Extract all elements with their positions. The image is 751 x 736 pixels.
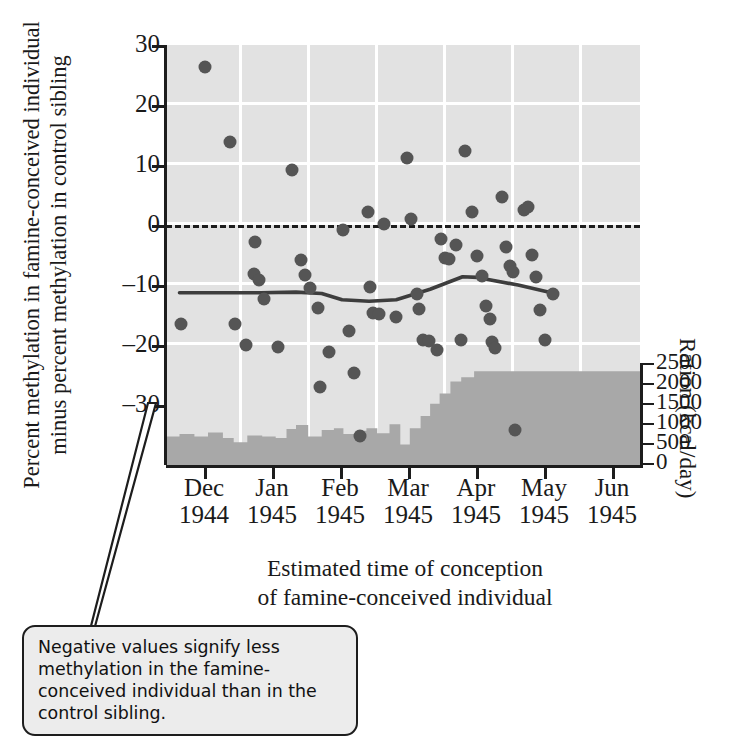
scatter-point [174, 317, 187, 330]
scatter-point [257, 293, 270, 306]
scatter-point [199, 60, 212, 73]
x-axis-title: Estimated time of conception of famine-c… [165, 554, 645, 611]
scatter-point [253, 273, 266, 286]
y-axis-right-title: Ration (kcal/day) [670, 338, 700, 538]
scatter-point [337, 223, 350, 236]
scatter-point [303, 281, 316, 294]
plot-area [166, 45, 640, 465]
scatter-point [322, 345, 335, 358]
trend-line [166, 45, 640, 465]
y-tick-label: 0 [10, 210, 160, 238]
scatter-point [483, 313, 496, 326]
y-tick-label: 10 [10, 150, 160, 178]
y-tick-label: 30 [10, 30, 160, 58]
callout-text: Negative values signify less methylation… [38, 637, 317, 723]
scatter-point [285, 163, 298, 176]
scatter-point [410, 288, 423, 301]
y-tick-label: 20 [10, 90, 160, 118]
scatter-point [525, 249, 538, 262]
scatter-point [443, 253, 456, 266]
scatter-point [509, 424, 522, 437]
ration-tick [643, 383, 654, 385]
ration-tick [643, 423, 654, 425]
scatter-point [314, 381, 327, 394]
x-tick-label: Jun1945 [557, 474, 667, 528]
y-tick-label: –20 [10, 330, 160, 358]
scatter-point [239, 339, 252, 352]
scatter-point [295, 253, 308, 266]
scatter-point [529, 271, 542, 284]
scatter-point [434, 232, 447, 245]
callout-pointer [60, 398, 200, 633]
ration-tick [643, 443, 654, 445]
scatter-point [459, 145, 472, 158]
scatter-point [466, 206, 479, 219]
scatter-point [298, 269, 311, 282]
scatter-point [413, 302, 426, 315]
scatter-point [390, 311, 403, 324]
callout-note: Negative values signify less methylation… [22, 625, 358, 736]
scatter-point [229, 318, 242, 331]
x-axis-title-line-1: Estimated time of conception [165, 554, 645, 583]
ration-tick [643, 363, 654, 365]
scatter-point [489, 342, 502, 355]
ration-tick [643, 463, 654, 465]
scatter-point [342, 324, 355, 337]
scatter-point [249, 235, 262, 248]
scatter-point [430, 344, 443, 357]
scatter-point [495, 190, 508, 203]
x-tick-year: 1945 [587, 501, 637, 528]
scatter-point [353, 430, 366, 443]
scatter-point [378, 218, 391, 231]
scatter-point [364, 281, 377, 294]
scatter-point [224, 135, 237, 148]
scatter-point [401, 152, 414, 165]
scatter-point [471, 250, 484, 263]
x-tick-month: Jan [255, 474, 288, 501]
scatter-point [449, 239, 462, 252]
scatter-point [475, 270, 488, 283]
scatter-point [372, 307, 385, 320]
scatter-point [348, 367, 361, 380]
scatter-point [405, 213, 418, 226]
scatter-point [479, 300, 492, 313]
scatter-point [533, 304, 546, 317]
scatter-point [506, 265, 519, 278]
scatter-point [539, 333, 552, 346]
x-axis [166, 465, 643, 468]
y-axis-right [640, 363, 643, 468]
scatter-point [361, 205, 374, 218]
scatter-point [521, 201, 534, 214]
scatter-point [311, 301, 324, 314]
y-tick-label: –10 [10, 270, 160, 298]
scatter-point [499, 240, 512, 253]
x-tick-month: Jun [595, 474, 630, 501]
scatter-point [547, 288, 560, 301]
scatter-point [272, 341, 285, 354]
x-axis-title-line-2: of famine-conceived individual [165, 583, 645, 612]
ration-tick [643, 403, 654, 405]
scatter-point [455, 334, 468, 347]
